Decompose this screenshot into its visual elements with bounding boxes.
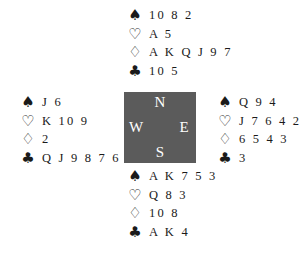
south-diamonds-cards: 10 8 (149, 204, 180, 223)
spade-icon: ♠ (19, 93, 37, 112)
west-spades-cards: J 6 (42, 93, 63, 112)
north-spades-row: ♠ 10 8 2 (126, 6, 233, 25)
west-clubs-row: ♣ Q J 9 8 7 6 2 (19, 149, 135, 168)
south-clubs-row: ♣ A K 4 (126, 223, 217, 242)
west-hearts-row: ♡ K 10 9 (19, 112, 135, 131)
heart-icon: ♡ (19, 112, 37, 131)
club-icon: ♣ (126, 223, 144, 242)
east-clubs-cards: 3 (239, 149, 247, 168)
east-hand: ♠ Q 9 4 ♡ J 7 6 4 2 ♢ 6 5 4 3 ♣ 3 (216, 93, 301, 167)
east-hearts-row: ♡ J 7 6 4 2 (216, 112, 301, 131)
compass-south-label: S (152, 145, 168, 160)
east-diamonds-row: ♢ 6 5 4 3 (216, 130, 301, 149)
north-hearts-cards: A 5 (149, 25, 173, 44)
heart-icon: ♡ (126, 186, 144, 205)
north-hearts-row: ♡ A 5 (126, 25, 233, 44)
north-spades-cards: 10 8 2 (149, 6, 193, 25)
club-icon: ♣ (216, 149, 234, 168)
club-icon: ♣ (19, 149, 37, 168)
compass-box: N W E S (124, 92, 196, 163)
compass-east-label: E (176, 120, 192, 135)
diamond-icon: ♢ (216, 130, 234, 149)
compass-north-label: N (152, 95, 168, 110)
diamond-icon: ♢ (126, 204, 144, 223)
west-diamonds-row: ♢ 2 (19, 130, 135, 149)
spade-icon: ♠ (126, 6, 144, 25)
south-spades-cards: A K 7 5 3 (149, 167, 217, 186)
heart-icon: ♡ (216, 112, 234, 131)
east-hearts-cards: J 7 6 4 2 (239, 112, 301, 131)
club-icon: ♣ (126, 62, 144, 81)
spade-icon: ♠ (126, 167, 144, 186)
west-hearts-cards: K 10 9 (42, 112, 89, 131)
west-diamonds-cards: 2 (42, 130, 50, 149)
east-diamonds-cards: 6 5 4 3 (239, 130, 289, 149)
west-hand: ♠ J 6 ♡ K 10 9 ♢ 2 ♣ Q J 9 8 7 6 2 (19, 93, 135, 167)
south-hearts-row: ♡ Q 8 3 (126, 186, 217, 205)
heart-icon: ♡ (126, 25, 144, 44)
north-clubs-row: ♣ 10 5 (126, 62, 233, 81)
south-diamonds-row: ♢ 10 8 (126, 204, 217, 223)
north-clubs-cards: 10 5 (149, 62, 180, 81)
diamond-icon: ♢ (19, 130, 37, 149)
north-diamonds-row: ♢ A K Q J 9 7 (126, 43, 233, 62)
north-hand: ♠ 10 8 2 ♡ A 5 ♢ A K Q J 9 7 ♣ 10 5 (126, 6, 233, 80)
east-clubs-row: ♣ 3 (216, 149, 301, 168)
west-clubs-cards: Q J 9 8 7 6 2 (42, 149, 135, 168)
spade-icon: ♠ (216, 93, 234, 112)
south-hand: ♠ A K 7 5 3 ♡ Q 8 3 ♢ 10 8 ♣ A K 4 (126, 167, 217, 241)
diamond-icon: ♢ (126, 43, 144, 62)
south-hearts-cards: Q 8 3 (149, 186, 188, 205)
north-diamonds-cards: A K Q J 9 7 (149, 43, 233, 62)
south-clubs-cards: A K 4 (149, 223, 190, 242)
compass-west-label: W (128, 120, 144, 135)
east-spades-row: ♠ Q 9 4 (216, 93, 301, 112)
east-spades-cards: Q 9 4 (239, 93, 278, 112)
south-spades-row: ♠ A K 7 5 3 (126, 167, 217, 186)
west-spades-row: ♠ J 6 (19, 93, 135, 112)
